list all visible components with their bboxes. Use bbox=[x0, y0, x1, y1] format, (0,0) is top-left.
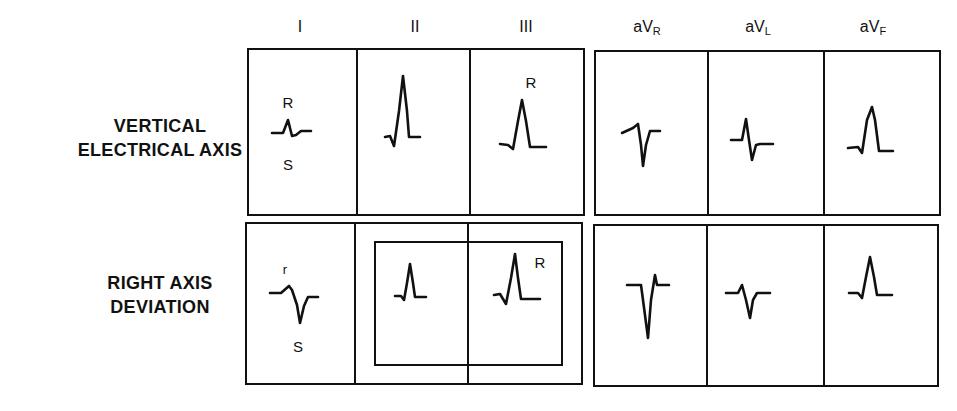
ecg-traces: R S R r S R bbox=[0, 0, 957, 411]
ecg-complex-row1-II bbox=[385, 76, 420, 146]
annotation-row1-III-R: R bbox=[526, 74, 537, 91]
ecg-complex-row2-aVL bbox=[726, 285, 770, 318]
ecg-complex-row1-III bbox=[500, 100, 546, 149]
annotation-row1-I-R: R bbox=[283, 94, 294, 111]
ecg-complex-row1-aVR bbox=[622, 124, 660, 166]
ecg-complex-row2-aVF bbox=[849, 257, 892, 298]
ecg-complex-row1-aVL bbox=[731, 119, 773, 160]
annotation-row2-I-S: S bbox=[293, 338, 303, 355]
ecg-complex-row2-II bbox=[395, 264, 426, 300]
annotation-row1-I-S: S bbox=[283, 156, 293, 173]
ecg-complex-row2-I bbox=[270, 286, 318, 323]
ecg-complex-row2-III bbox=[494, 254, 540, 304]
annotation-row2-III-R: R bbox=[535, 254, 546, 271]
ecg-complex-row1-I bbox=[272, 120, 311, 136]
annotation-row2-I-r: r bbox=[283, 262, 288, 277]
ecg-complex-row2-aVR bbox=[627, 275, 669, 338]
ecg-complex-row1-aVF bbox=[848, 107, 893, 153]
